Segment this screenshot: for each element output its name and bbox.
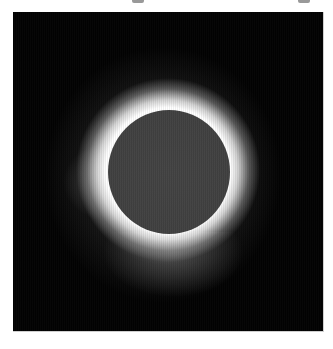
cutoff-text-fragment	[132, 0, 144, 3]
moon-disc	[108, 110, 230, 234]
page: Total solar eclipse	[0, 0, 333, 349]
eclipse-photo	[13, 12, 324, 332]
cutoff-text-fragment	[298, 0, 310, 3]
